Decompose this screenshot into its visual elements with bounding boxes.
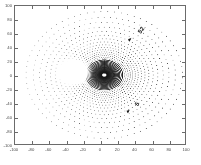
y-tick-label-9: 80 xyxy=(0,17,12,22)
x-tick-top-1 xyxy=(32,6,33,9)
x-tick-top-4 xyxy=(84,6,85,9)
figure-panel: 525 -100-80-60-40-20020406080100 -100-80… xyxy=(0,0,201,165)
x-tick-label-5: 0 xyxy=(99,147,101,152)
y-tick-label-10: 100 xyxy=(0,3,12,8)
y-tick-label-8: 60 xyxy=(0,31,12,36)
x-tick-7 xyxy=(135,141,136,144)
x-tick-top-9 xyxy=(170,6,171,9)
x-tick-8 xyxy=(153,141,154,144)
y-tick-label-3: -40 xyxy=(0,101,12,106)
x-tick-label-7: 40 xyxy=(132,147,137,152)
y-tick-right-7 xyxy=(182,48,185,49)
y-tick-right-4 xyxy=(182,90,185,91)
x-tick-6 xyxy=(118,141,119,144)
y-tick-right-9 xyxy=(182,20,185,21)
y-tick-2 xyxy=(15,118,18,119)
x-tick-label-1: -80 xyxy=(28,147,34,152)
y-tick-8 xyxy=(15,34,18,35)
x-tick-1 xyxy=(32,141,33,144)
y-tick-right-2 xyxy=(182,118,185,119)
x-tick-top-8 xyxy=(153,6,154,9)
y-tick-right-1 xyxy=(182,132,185,133)
y-tick-7 xyxy=(15,48,18,49)
x-tick-2 xyxy=(49,141,50,144)
x-tick-label-8: 60 xyxy=(149,147,154,152)
y-tick-5 xyxy=(15,76,18,77)
x-tick-label-4: -20 xyxy=(80,147,86,152)
x-tick-top-6 xyxy=(118,6,119,9)
x-tick-4 xyxy=(84,141,85,144)
y-tick-label-4: -20 xyxy=(0,87,12,92)
x-tick-label-2: -60 xyxy=(45,147,51,152)
plot-axes: 525 xyxy=(14,5,186,145)
x-tick-label-6: 20 xyxy=(115,147,120,152)
x-tick-label-9: 80 xyxy=(166,147,171,152)
x-tick-label-0: -100 xyxy=(10,147,18,152)
x-tick-top-2 xyxy=(49,6,50,9)
x-tick-5 xyxy=(101,141,102,144)
x-tick-3 xyxy=(67,141,68,144)
scatter-plot-canvas xyxy=(15,6,185,144)
x-tick-top-3 xyxy=(67,6,68,9)
y-tick-right-3 xyxy=(182,104,185,105)
x-tick-top-5 xyxy=(101,6,102,9)
y-tick-1 xyxy=(15,132,18,133)
y-tick-4 xyxy=(15,90,18,91)
y-tick-right-5 xyxy=(182,76,185,77)
y-tick-right-8 xyxy=(182,34,185,35)
y-tick-label-1: -80 xyxy=(0,129,12,134)
y-tick-label-2: -60 xyxy=(0,115,12,120)
y-tick-9 xyxy=(15,20,18,21)
y-tick-3 xyxy=(15,104,18,105)
x-tick-9 xyxy=(170,141,171,144)
y-tick-label-6: 20 xyxy=(0,59,12,64)
y-tick-label-5: 0 xyxy=(0,73,12,78)
y-tick-6 xyxy=(15,62,18,63)
x-tick-top-7 xyxy=(135,6,136,9)
y-tick-right-6 xyxy=(182,62,185,63)
y-tick-label-0: -100 xyxy=(0,143,12,148)
x-tick-label-3: -40 xyxy=(63,147,69,152)
x-tick-label-10: 100 xyxy=(183,147,190,152)
y-tick-label-7: 40 xyxy=(0,45,12,50)
